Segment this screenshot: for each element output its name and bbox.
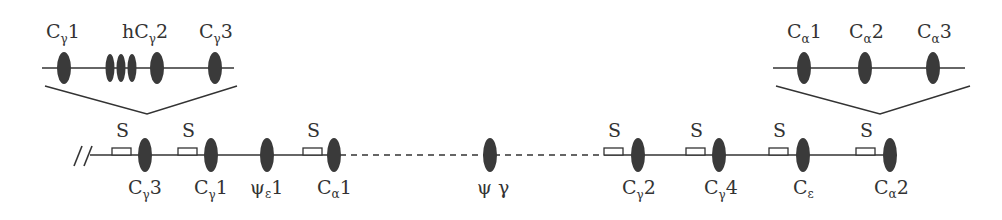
inset-label-hcg2: hCγ2 <box>122 20 168 46</box>
switch-region-cg3 <box>112 148 131 155</box>
gene-label-ce: Cε <box>793 176 814 201</box>
switch-label-cg3: S <box>116 119 129 141</box>
gene-pg <box>483 138 497 172</box>
inset-label-ca2: Cα2 <box>849 20 884 46</box>
inset-gene-hcg2 <box>150 52 164 84</box>
inset-gene-hinge-2 <box>117 54 126 82</box>
switch-region-ca2 <box>856 148 875 155</box>
inset-gene-cg3 <box>208 52 222 84</box>
switch-region-ce <box>769 148 788 155</box>
gene-label-pe1: ψε1 <box>250 176 283 201</box>
switch-label-cg1: S <box>182 119 195 141</box>
gene-cg1 <box>204 138 218 172</box>
gene-pe1 <box>260 138 274 172</box>
inset-label-ca3: Cα3 <box>917 20 952 46</box>
inset-gene-ca2 <box>858 52 872 84</box>
inset-label-cg3: Cγ3 <box>199 20 233 46</box>
gene-label-ca1: Cα1 <box>317 176 352 201</box>
switch-label-cg2: S <box>608 119 621 141</box>
gene-ce <box>796 138 810 172</box>
gene-label-cg2: Cγ2 <box>622 176 656 202</box>
inset-gene-ca3 <box>926 52 940 84</box>
left-expansion-lines <box>45 86 237 114</box>
right-inset: Cα1 Cα2 Cα3 <box>773 20 970 114</box>
switch-label-ce: S <box>773 119 786 141</box>
switch-label-ca1: S <box>307 119 320 141</box>
gene-ca1 <box>327 138 341 172</box>
inset-label-ca1: Cα1 <box>787 20 822 46</box>
switch-region-ca1 <box>303 148 322 155</box>
gene-ca2 <box>883 138 897 172</box>
gene-label-pg: ψ γ <box>477 176 509 198</box>
break-symbol-slash-2 <box>84 146 92 166</box>
switch-label-ca2: S <box>860 119 873 141</box>
main-locus: S S S S S S S Cγ3 Cγ1 ψε1 Cα1 ψ γ <box>74 119 909 202</box>
gene-label-cg3: Cγ3 <box>128 176 162 202</box>
gene-label-cg4: Cγ4 <box>704 176 738 202</box>
ig-heavy-chain-constant-locus-diagram: Cγ1 hCγ2 Cγ3 Cα1 Cα2 Cα3 <box>0 0 1002 220</box>
left-inset: Cγ1 hCγ2 Cγ3 <box>42 20 237 114</box>
switch-region-cg2 <box>604 148 623 155</box>
break-symbol-slash-1 <box>74 146 82 166</box>
inset-gene-cg1 <box>57 52 71 84</box>
switch-region-cg4 <box>686 148 705 155</box>
switch-label-cg4: S <box>690 119 703 141</box>
gene-cg4 <box>712 138 726 172</box>
right-expansion-lines <box>776 86 970 114</box>
inset-gene-hinge-3 <box>128 54 137 82</box>
inset-label-cg1: Cγ1 <box>46 20 80 46</box>
inset-gene-hinge-1 <box>106 54 115 82</box>
gene-label-cg1: Cγ1 <box>194 176 228 202</box>
gene-label-ca2: Cα2 <box>874 176 909 201</box>
gene-cg2 <box>631 138 645 172</box>
inset-gene-ca1 <box>797 52 811 84</box>
switch-region-cg1 <box>178 148 197 155</box>
gene-cg3 <box>138 138 152 172</box>
